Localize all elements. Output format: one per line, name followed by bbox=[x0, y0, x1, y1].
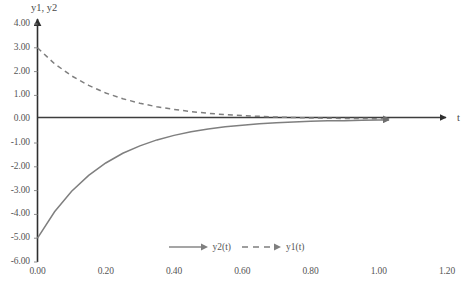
x-tick-label: 0.00 bbox=[18, 266, 58, 276]
y-tick-label: -1.00 bbox=[0, 137, 30, 147]
series-line-y1 bbox=[38, 48, 389, 119]
x-axis-title: t bbox=[457, 112, 460, 123]
legend-entry-y2[interactable]: y2(t) bbox=[168, 242, 231, 252]
chart-legend: y2(t) y1(t) bbox=[0, 242, 472, 252]
x-tick-label: 0.20 bbox=[86, 266, 126, 276]
series-line-y2 bbox=[38, 120, 389, 238]
y-tick-label: -4.00 bbox=[0, 208, 30, 218]
y-tick-label: -6.00 bbox=[0, 256, 30, 266]
y-tick-label: 4.00 bbox=[0, 18, 30, 28]
legend-label-y2: y2(t) bbox=[213, 242, 231, 252]
legend-entry-y1[interactable]: y1(t) bbox=[241, 242, 304, 252]
legend-swatch-solid-arrow-icon bbox=[168, 242, 210, 252]
y-tick-label: -5.00 bbox=[0, 232, 30, 242]
legend-label-y1: y1(t) bbox=[286, 242, 304, 252]
x-tick-label: 1.00 bbox=[359, 266, 399, 276]
y-tick-label: -3.00 bbox=[0, 185, 30, 195]
y-tick-label: -2.00 bbox=[0, 161, 30, 171]
y-axis-title: y1, y2 bbox=[31, 2, 57, 13]
y-tick-label: 1.00 bbox=[0, 89, 30, 99]
x-tick-label: 1.20 bbox=[427, 266, 467, 276]
chart-figure: y1, y2 t 4.003.002.001.000.00-1.00-2.00-… bbox=[0, 0, 472, 291]
y-tick-label: 3.00 bbox=[0, 42, 30, 52]
legend-swatch-dashed-arrow-icon bbox=[241, 242, 283, 252]
x-tick-label: 0.40 bbox=[154, 266, 194, 276]
y-tick-label: 2.00 bbox=[0, 66, 30, 76]
x-tick-label: 0.60 bbox=[222, 266, 262, 276]
x-tick-label: 0.80 bbox=[291, 266, 331, 276]
figure-caption bbox=[0, 283, 472, 291]
y-tick-label: 0.00 bbox=[0, 113, 30, 123]
